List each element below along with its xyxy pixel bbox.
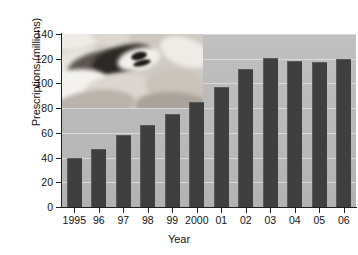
x-tick-02 (246, 208, 247, 213)
y-tick-40 (56, 158, 62, 159)
bar-98 (140, 125, 155, 207)
y-tick-100 (56, 83, 62, 84)
bar-97 (116, 135, 131, 207)
plot-area (62, 34, 356, 207)
bar-03 (263, 58, 278, 208)
x-tick-label-06: 06 (324, 215, 358, 226)
bar-05 (312, 62, 327, 207)
y-tick-80 (56, 108, 62, 109)
x-axis-line (61, 207, 357, 208)
x-tick-97 (123, 208, 124, 213)
x-tick-04 (295, 208, 296, 213)
x-axis-title: Year (0, 233, 358, 245)
y-tick-label-140: 140 (13, 29, 53, 39)
y-tick-label-60: 60 (13, 128, 53, 138)
x-tick-99 (172, 208, 173, 213)
bar-02 (238, 69, 253, 207)
bar-04 (287, 61, 302, 207)
y-tick-label-40: 40 (13, 153, 53, 163)
bar-99 (165, 114, 180, 207)
y-tick-140 (56, 34, 62, 35)
y-tick-120 (56, 59, 62, 60)
bar-series (62, 34, 356, 207)
bar-96 (91, 149, 106, 207)
x-tick-03 (270, 208, 271, 213)
bar-01 (214, 87, 229, 207)
y-tick-label-80: 80 (13, 103, 53, 113)
bar-1995 (67, 158, 82, 207)
y-tick-label-20: 20 (13, 177, 53, 187)
x-tick-2000 (197, 208, 198, 213)
x-tick-06 (344, 208, 345, 213)
y-tick-60 (56, 133, 62, 134)
bar-06 (336, 59, 351, 207)
x-tick-98 (148, 208, 149, 213)
x-tick-01 (221, 208, 222, 213)
bar-2000 (189, 102, 204, 207)
x-tick-05 (319, 208, 320, 213)
x-tick-96 (99, 208, 100, 213)
y-tick-0 (56, 207, 62, 208)
bar-chart-figure: Prescriptions (millions) (0, 0, 358, 255)
y-tick-20 (56, 182, 62, 183)
y-tick-label-120: 120 (13, 54, 53, 64)
y-tick-label-100: 100 (13, 78, 53, 88)
x-tick-1995 (74, 208, 75, 213)
y-tick-label-0: 0 (13, 202, 53, 212)
